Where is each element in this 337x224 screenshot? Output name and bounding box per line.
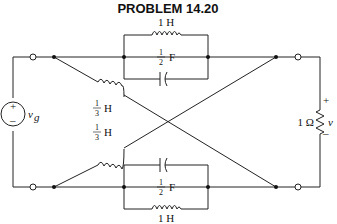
load-resistance: 1 Ω [298,116,314,128]
load-minus: – [322,127,329,139]
terminal [30,54,36,60]
inductor-cross-2 [98,149,124,169]
frac-num: 1 [95,123,99,132]
load-voltage-label: v [328,116,333,128]
source-minus: – [9,114,16,126]
frac-num: 1 [95,99,99,108]
cross-unit: H [104,126,112,138]
bottom-inductor-label: 1 H [158,212,174,224]
cap-unit: F [169,51,175,63]
terminal [295,54,301,60]
top-inductor-label: 1 H [158,16,174,28]
frac-den: 3 [95,109,99,118]
frac-den: 3 [95,133,99,142]
frac-den: 2 [159,58,163,67]
frac-den: 2 [159,188,163,197]
frac-num: 1 [159,48,163,57]
terminal [30,184,36,190]
load-plus: + [323,94,329,106]
source-subscript: g [34,111,40,123]
inductor-cross-1 [98,79,124,97]
cap-unit: F [169,181,175,193]
inductor-top [152,32,181,36]
source-label: v [28,108,33,120]
inductor-bottom [152,206,181,210]
source-plus: + [10,100,16,112]
cross-unit: H [104,102,112,114]
title: PROBLEM 14.20 [117,1,218,16]
terminal [295,184,301,190]
frac-num: 1 [159,178,163,187]
circuit-diagram: PROBLEM 14.20 1 H 1 2 F 1 2 F 1 H 1 3 H … [0,0,337,224]
